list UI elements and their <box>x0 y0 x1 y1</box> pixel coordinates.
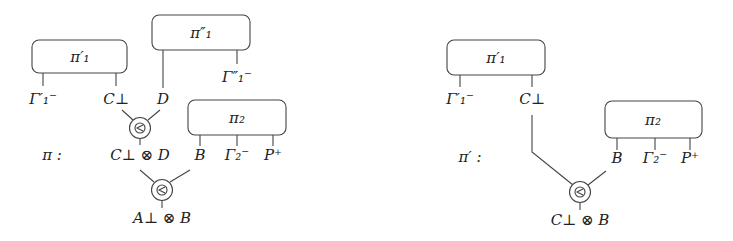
label-aperp-tensor-b: A⊥ ⊗ B <box>131 209 191 227</box>
box-pi2-label: π₂ <box>228 109 245 127</box>
label-gamma2: Γ₂⁻ <box>642 149 667 167</box>
wire-cperp-to-tensor <box>532 115 573 185</box>
proof-net-figure: π′₁ Γ′₁⁻ C⊥ π″₁ D Γ″₁⁻ C⊥ ⊗ D π : π₂ B Γ… <box>0 0 733 241</box>
label-pplus: P⁺ <box>680 149 699 167</box>
wire-d-to-tensor <box>148 110 160 120</box>
box-pi1-prime-label: π′₁ <box>485 49 505 67</box>
label-cperp-tensor-d: C⊥ ⊗ D <box>110 146 170 164</box>
box-pi1-doubleprime-label: π″₁ <box>189 24 211 42</box>
label-cperp: C⊥ <box>519 90 545 108</box>
wire-tensor1-to-tensor2 <box>140 170 154 182</box>
label-pi-prime: π′ : <box>457 148 481 166</box>
wire-cperp-to-tensor <box>122 110 133 120</box>
box-pi2-label: π₂ <box>644 111 661 129</box>
label-gamma1p: Γ′₁⁻ <box>28 90 57 108</box>
wire-b-to-tensor2 <box>170 170 190 182</box>
right-proof-net: π′₁ Γ′₁⁻ C⊥ π′ : π₂ B Γ₂⁻ P⁺ C⊥ ⊗ B <box>445 40 702 229</box>
label-gamma2: Γ₂⁻ <box>224 146 249 164</box>
label-pplus: P⁺ <box>263 146 282 164</box>
label-d: D <box>156 90 169 108</box>
label-gamma1p: Γ′₁⁻ <box>445 90 474 108</box>
label-gamma1pp: Γ″₁⁻ <box>221 68 252 86</box>
label-pi: π : <box>41 146 62 164</box>
label-cperp-tensor-b: C⊥ ⊗ B <box>551 211 610 229</box>
wire-b-to-tensor <box>588 171 606 185</box>
label-cperp: C⊥ <box>103 90 129 108</box>
box-pi1-prime-label: π′₁ <box>69 48 89 66</box>
left-proof-net: π′₁ Γ′₁⁻ C⊥ π″₁ D Γ″₁⁻ C⊥ ⊗ D π : π₂ B Γ… <box>28 15 286 227</box>
label-b: B <box>193 146 205 164</box>
label-b: B <box>610 149 622 167</box>
